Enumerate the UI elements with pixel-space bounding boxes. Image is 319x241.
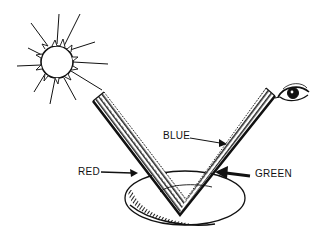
blue-arrow bbox=[190, 138, 227, 147]
diagram-canvas bbox=[0, 0, 319, 241]
red-arrow bbox=[101, 169, 138, 177]
eye-icon bbox=[275, 84, 309, 101]
sun-icon bbox=[17, 14, 108, 104]
label-green: GREEN bbox=[255, 169, 292, 179]
label-red: RED bbox=[78, 167, 100, 177]
label-blue: BLUE bbox=[163, 131, 190, 141]
